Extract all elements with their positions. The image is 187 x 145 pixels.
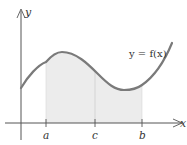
- tick-label-b: b: [139, 129, 146, 141]
- tick-label-c: c: [92, 129, 98, 141]
- area-under-curve-diagram: y x y = f(x) a c b: [0, 0, 187, 145]
- y-axis-label: y: [24, 6, 32, 19]
- shaded-area: [46, 52, 142, 123]
- tick-label-a: a: [43, 129, 49, 141]
- x-axis-label: x: [180, 117, 187, 130]
- function-label: y = f(x): [128, 48, 167, 59]
